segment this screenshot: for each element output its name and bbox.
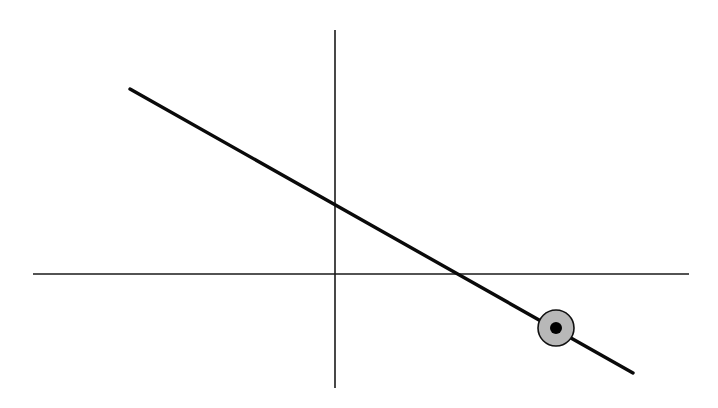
coordinate-diagram	[0, 0, 718, 408]
highlighted-point	[538, 310, 574, 346]
point-center	[550, 322, 562, 334]
background	[0, 0, 718, 408]
